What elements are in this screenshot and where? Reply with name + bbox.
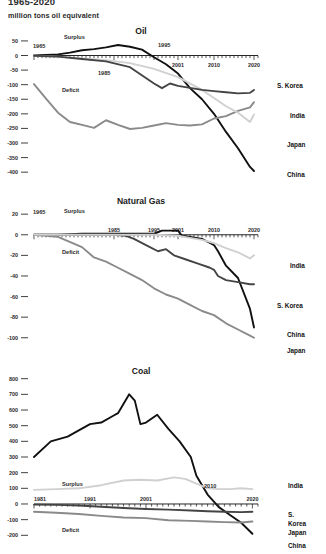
- y-tick-label: -100: [7, 82, 18, 88]
- annotation-1965: 1965: [33, 43, 45, 49]
- y-tick-label: -80: [10, 314, 18, 320]
- legend-label-china: China: [287, 331, 305, 338]
- page-subtitle: million tons oil equivalent: [8, 11, 99, 20]
- chart-svg-oil: 500-50-100-150-200-250-300-350-400200120…: [0, 26, 326, 196]
- legend-label-s-korea: S. Korea: [277, 302, 303, 309]
- annotation-surplus: Surplus: [64, 208, 85, 214]
- y-tick-label: -250: [7, 125, 18, 131]
- y-tick-label: 50: [12, 38, 18, 44]
- legend-label-china: China: [287, 171, 305, 178]
- x-tick-label: 2001: [172, 62, 184, 68]
- annotation-deficit: Deficit: [62, 527, 79, 533]
- x-tick-label: 1985: [108, 227, 120, 233]
- page-title: 1965-2020: [8, 0, 55, 7]
- y-tick-label: 0: [15, 501, 18, 507]
- y-tick-label: -350: [7, 155, 18, 161]
- y-tick-label: -20: [10, 252, 18, 258]
- chart-panel-coal: Coal 8007006005004003002001000-100-20019…: [0, 366, 326, 554]
- chart-svg-natural-gas: 200-20-40-60-80-10019851995200120102020I…: [0, 196, 326, 366]
- legend-label-japan: Japan: [287, 347, 306, 355]
- legend-label-korea: Korea: [288, 520, 307, 527]
- series-line-japan: [34, 512, 252, 523]
- y-tick-label: 300: [9, 454, 18, 460]
- chart-title-natural-gas: Natural Gas: [0, 196, 304, 206]
- y-tick-label: -100: [7, 517, 18, 523]
- legend-label-s-korea: S. Korea: [277, 82, 303, 89]
- chart-page: 1965-2020 million tons oil equivalent Oi…: [0, 0, 326, 554]
- y-tick-label: 100: [9, 485, 18, 491]
- x-tick-label: 2020: [248, 227, 260, 233]
- y-tick-label: 0: [15, 53, 18, 59]
- y-tick-label: -50: [10, 67, 18, 73]
- annotation-surplus: Surplus: [62, 481, 83, 487]
- y-tick-label: -60: [10, 294, 18, 300]
- y-tick-label: 800: [9, 376, 18, 382]
- x-tick-label: 2010: [208, 62, 220, 68]
- x-tick-label: 2020: [246, 496, 258, 502]
- series-line-china: [34, 45, 254, 171]
- y-tick-label: -200: [7, 111, 18, 117]
- y-tick-label: -200: [7, 532, 18, 538]
- y-tick-label: 700: [9, 391, 18, 397]
- annotation-1995: 1995: [158, 42, 170, 48]
- y-tick-label: -300: [7, 140, 18, 146]
- chart-svg-coal: 8007006005004003002001000-100-2001981199…: [0, 366, 326, 554]
- y-tick-label: -40: [10, 273, 18, 279]
- series-line-s-korea: [34, 235, 254, 284]
- y-tick-label: 20: [12, 211, 18, 217]
- y-tick-label: 0: [15, 232, 18, 238]
- y-tick-label: -100: [7, 335, 18, 341]
- y-tick-label: -400: [7, 169, 18, 175]
- chart-panel-natural-gas: Natural Gas 200-20-40-60-80-100198519952…: [0, 196, 326, 366]
- y-tick-label: 500: [9, 423, 18, 429]
- annotation-1985: 1985: [98, 70, 110, 76]
- legend-label-japan: Japan: [287, 141, 306, 149]
- legend-label-india: India: [290, 262, 305, 269]
- y-tick-label: 400: [9, 438, 18, 444]
- x-tick-label: 2020: [248, 62, 260, 68]
- chart-panel-oil: Oil 500-50-100-150-200-250-300-350-40020…: [0, 26, 326, 196]
- annotation-2010: 2010: [204, 483, 216, 489]
- legend-label-india: India: [288, 482, 303, 489]
- y-tick-label: 600: [9, 407, 18, 413]
- x-tick-label: 2010: [208, 227, 220, 233]
- legend-label-s: S.: [288, 511, 294, 518]
- chart-title-oil: Oil: [0, 26, 304, 36]
- x-tick-label: 1981: [34, 496, 46, 502]
- annotation-1965: 1965: [33, 209, 45, 215]
- annotation-deficit: Deficit: [62, 249, 79, 255]
- chart-title-coal: Coal: [0, 366, 304, 376]
- y-tick-label: -150: [7, 96, 18, 102]
- legend-label-japan: Japan: [288, 529, 307, 537]
- legend-label-china: China: [288, 542, 306, 549]
- x-tick-label: 2001: [140, 496, 152, 502]
- y-tick-label: 200: [9, 470, 18, 476]
- legend-label-india: India: [290, 112, 305, 119]
- annotation-deficit: Deficit: [62, 87, 79, 93]
- x-tick-label: 1991: [84, 496, 96, 502]
